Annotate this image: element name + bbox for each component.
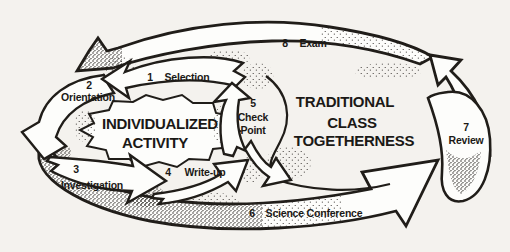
inner-title-line2: ACTIVITY — [122, 134, 188, 151]
step-6-label: Science Conference — [266, 207, 363, 219]
step-8-label: Exam — [299, 37, 326, 49]
step-5-label-line2: Point — [240, 124, 266, 136]
outer-title-line3: TOGETHERNESS — [294, 132, 415, 149]
exam-band-shading — [320, 22, 438, 70]
step-3-number: 3 — [73, 163, 79, 175]
outer-title-line1: TRADITIONAL — [296, 93, 394, 110]
step-3-label: Investigation — [61, 179, 123, 191]
step-8-number: 8 — [282, 37, 288, 49]
step-4-label: Write-up — [185, 166, 226, 178]
shading-patch — [354, 63, 422, 79]
step-2-number: 2 — [86, 79, 92, 91]
step-6-number: 6 — [249, 207, 255, 219]
bottom-band-shading-light — [262, 196, 342, 242]
step-1-label: Selection — [165, 71, 210, 83]
flow-diagram: 1 Selection 2 Orientation 3 Investigatio… — [0, 0, 510, 252]
step-5-number: 5 — [250, 97, 256, 109]
shading-patch — [74, 110, 96, 142]
inner-title-line1: INDIVIDUALIZED — [102, 115, 218, 132]
step-4-number: 4 — [165, 166, 171, 178]
step-2-label: Orientation — [61, 91, 115, 103]
diagram-stage: 1 Selection 2 Orientation 3 Investigatio… — [0, 0, 510, 252]
step-5-label-line1: Check — [238, 111, 269, 123]
shading-patch — [242, 63, 274, 89]
step-1-number: 1 — [147, 71, 153, 83]
step-7-label: Review — [449, 134, 485, 146]
outer-title-line2: CLASS — [327, 114, 377, 131]
review-pocket — [428, 92, 490, 202]
step-7-number: 7 — [463, 121, 469, 133]
